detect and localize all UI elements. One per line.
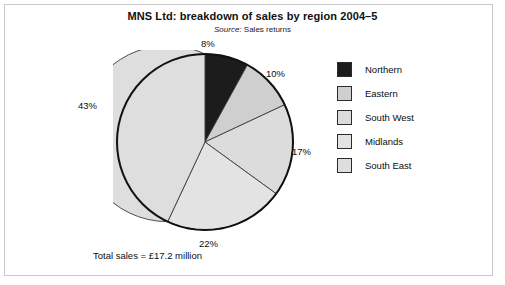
legend-item-label: South West: [365, 112, 414, 123]
legend-item-south-east[interactable]: South East: [337, 153, 477, 177]
legend: Northern Eastern South West Midlands Sou…: [337, 57, 477, 177]
pie-label-south-east: 43%: [78, 100, 97, 111]
legend-swatch-icon: [337, 110, 352, 125]
legend-swatch-icon: [337, 158, 352, 173]
pie-label-midlands: 22%: [199, 238, 218, 249]
legend-item-midlands[interactable]: Midlands: [337, 129, 477, 153]
source-label: Source:: [214, 25, 242, 34]
chart-source-note: Source: Sales returns: [0, 25, 505, 34]
legend-swatch-icon: [337, 134, 352, 149]
legend-swatch-icon: [337, 86, 352, 101]
legend-swatch-icon: [337, 62, 352, 77]
pie-label-south-west: 17%: [292, 146, 311, 157]
pie-label-northern: 8%: [201, 38, 215, 49]
legend-item-label: Eastern: [365, 88, 398, 99]
legend-item-label: Midlands: [365, 136, 403, 147]
legend-item-northern[interactable]: Northern: [337, 57, 477, 81]
page-title: MNS Ltd: breakdown of sales by region 20…: [0, 10, 505, 22]
pie-label-eastern: 10%: [266, 68, 285, 79]
pie-chart-figure: MNS Ltd: breakdown of sales by region 20…: [0, 0, 505, 285]
total-sales-annotation: Total sales = £17.2 million: [93, 250, 202, 261]
legend-item-label: South East: [365, 160, 411, 171]
legend-item-eastern[interactable]: Eastern: [337, 81, 477, 105]
legend-item-label: Northern: [365, 64, 402, 75]
source-value: Sales returns: [242, 25, 291, 34]
legend-item-south-west[interactable]: South West: [337, 105, 477, 129]
